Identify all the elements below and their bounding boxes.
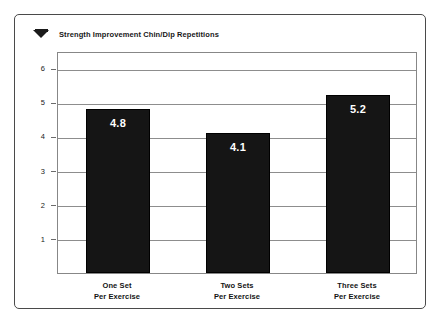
y-axis-tick-mark (51, 69, 56, 70)
x-axis-category-line-2: Per Exercise (297, 292, 417, 303)
y-axis-tick-mark (51, 137, 56, 138)
chart-figure: Strength Improvement Chin/Dip Repetition… (0, 0, 444, 325)
bar-value-label: 4.8 (86, 117, 150, 129)
bar-value-label: 5.2 (326, 103, 390, 115)
bar-series: 4.84.15.2 (58, 53, 416, 273)
y-axis-tick-label: 1 (23, 235, 45, 244)
chart-legend: Strength Improvement Chin/Dip Repetition… (33, 26, 219, 42)
plot-area: 4.84.15.2 (57, 52, 417, 274)
legend-series-label: Strength Improvement Chin/Dip Repetition… (59, 30, 219, 39)
bar[interactable]: 5.2 (326, 95, 390, 273)
bar-rect (206, 133, 270, 273)
y-axis-tick-label: 5 (23, 98, 45, 107)
x-axis-category-label: Three SetsPer Exercise (297, 281, 417, 302)
x-axis-category-label: One SetPer Exercise (57, 281, 177, 302)
y-axis-tick-label: 2 (23, 201, 45, 210)
bar-value-label: 4.1 (206, 141, 270, 153)
bar-rect (86, 109, 150, 273)
y-axis-tick-label: 6 (23, 64, 45, 73)
y-axis-tick-mark (51, 103, 56, 104)
x-axis-category-label: Two SetsPer Exercise (177, 281, 297, 302)
bar[interactable]: 4.1 (206, 133, 270, 273)
triangle-marker-icon (33, 29, 50, 40)
x-axis-category-line-1: One Set (57, 281, 177, 292)
bar[interactable]: 4.8 (86, 109, 150, 273)
y-axis-tick-mark (51, 239, 56, 240)
x-axis-category-line-1: Three Sets (297, 281, 417, 292)
y-axis-tick-mark (51, 171, 56, 172)
x-axis-category-line-2: Per Exercise (177, 292, 297, 303)
y-axis-tick-label: 4 (23, 132, 45, 141)
x-axis-category-line-2: Per Exercise (57, 292, 177, 303)
x-axis-category-line-1: Two Sets (177, 281, 297, 292)
y-axis-tick-mark (51, 205, 56, 206)
bar-rect (326, 95, 390, 273)
y-axis-tick-label: 3 (23, 167, 45, 176)
